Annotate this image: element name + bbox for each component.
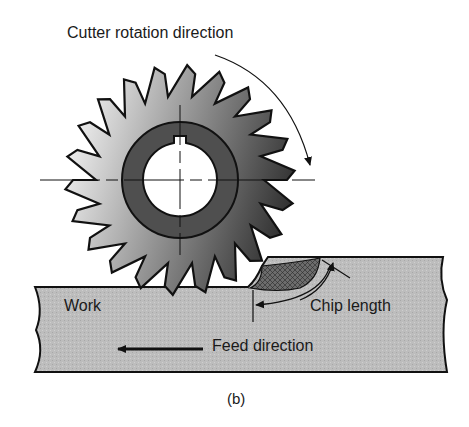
figure-caption: (b) (227, 390, 245, 407)
work-label: Work (64, 297, 101, 315)
cutter-rotation-label: Cutter rotation direction (67, 24, 233, 42)
diagram-canvas (0, 0, 469, 427)
milling-diagram: Cutter rotation direction Work Chip leng… (0, 0, 469, 427)
chip-length-label: Chip length (310, 297, 391, 315)
feed-direction-label: Feed direction (212, 337, 313, 355)
